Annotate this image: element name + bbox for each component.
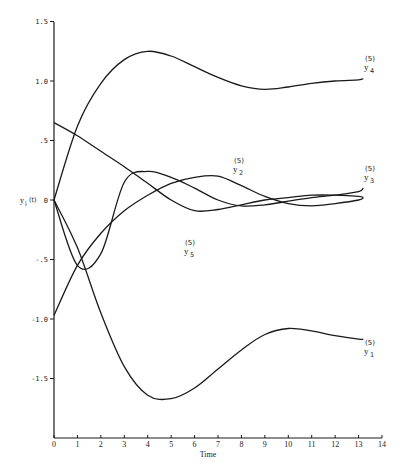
curve-y5: [54, 123, 363, 212]
x-tick-label: 8: [239, 440, 243, 449]
curve-label-symbol: y: [364, 346, 369, 356]
curve-label-index: 3: [370, 177, 374, 185]
y-tick-label: -.5: [35, 256, 48, 264]
x-tick-label: 13: [355, 440, 363, 449]
x-ticks: 01234567891011121314: [52, 435, 386, 449]
curve-label-symbol: y: [364, 62, 369, 72]
y-tick-label: 1.0: [35, 78, 48, 86]
curve-label-index: 2: [239, 169, 243, 177]
y-tick-label: 0: [44, 197, 48, 205]
y-axis-title: y i (t): [20, 196, 37, 208]
x-tick-label: 4: [146, 440, 150, 449]
x-tick-label: 2: [99, 440, 103, 449]
curve-label-index: 4: [370, 67, 374, 75]
y-tick-label: -1.5: [31, 375, 48, 383]
x-tick-label: 10: [284, 440, 292, 449]
curve-label-y1: (5)y1: [364, 339, 375, 359]
curve-labels: (5)y4(5)y1(5)y2(5)y3(5)y5: [184, 55, 375, 359]
x-axis-title: Time: [200, 450, 217, 459]
curve-label-index: 5: [190, 251, 194, 259]
line-chart: 1.51.0.50-.5-1.0-1.5 0123456789101112131…: [0, 0, 399, 470]
y-axis-title-arg: (t): [29, 196, 37, 204]
curve-label-index: 1: [370, 351, 374, 359]
curve-y3: [54, 171, 363, 269]
x-tick-label: 5: [169, 440, 173, 449]
x-tick-label: 11: [308, 440, 316, 449]
x-tick-label: 9: [263, 440, 267, 449]
curve-label-y4: (5)y4: [364, 55, 375, 75]
curve-label-y3: (5)y3: [364, 165, 375, 185]
x-tick-label: 3: [122, 440, 126, 449]
y-axis-title-sub: i: [25, 200, 27, 208]
curve-label-symbol: y: [364, 172, 369, 182]
curve-label-y5: (5)y5: [184, 239, 195, 259]
x-tick-label: 0: [52, 440, 56, 449]
y-tick-label: 1.5: [35, 18, 48, 26]
x-tick-label: 12: [331, 440, 339, 449]
curve-y1: [54, 200, 363, 400]
curve-label-symbol: y: [184, 246, 189, 256]
curve-y4: [54, 51, 363, 200]
curve-label-symbol: y: [233, 164, 238, 174]
x-tick-label: 6: [193, 440, 197, 449]
y-axis-title-main: y: [20, 196, 24, 205]
curves: [54, 51, 363, 399]
x-tick-label: 1: [75, 440, 79, 449]
y-tick-label: .5: [40, 137, 48, 145]
y-tick-label: -1.0: [31, 316, 48, 324]
curve-label-y2: (5)y2: [233, 157, 244, 177]
x-tick-label: 7: [216, 440, 220, 449]
x-tick-label: 14: [378, 440, 386, 449]
